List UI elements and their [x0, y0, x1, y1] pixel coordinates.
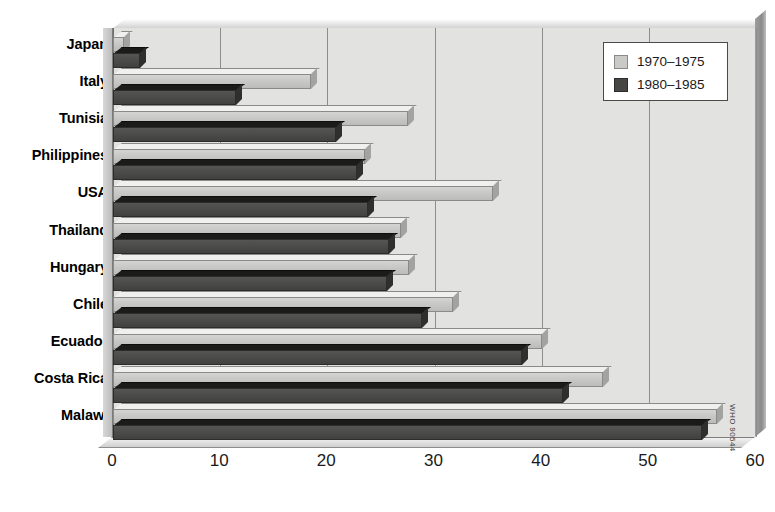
gridline-60 — [756, 28, 757, 437]
legend-label-series-a: 1970–1975 — [637, 55, 705, 69]
category-label-japan: Japan — [0, 37, 108, 52]
bar-group — [113, 288, 755, 325]
category-label-ecuador: Ecuador — [0, 334, 108, 349]
bar-side-face — [408, 105, 414, 126]
x-tick-label-30: 30 — [424, 452, 443, 469]
bar-group — [113, 140, 755, 177]
bar-group — [113, 400, 755, 437]
x-tick-label-10: 10 — [210, 452, 229, 469]
category-label-philippines: Philippines — [0, 148, 108, 163]
x-tick-label-60: 60 — [746, 452, 765, 469]
bar-group — [113, 177, 755, 214]
bar-group — [113, 325, 755, 362]
bar-group — [113, 102, 755, 139]
x-tick-label-50: 50 — [638, 452, 657, 469]
bar-group — [113, 251, 755, 288]
category-label-hungary: Hungary — [0, 260, 108, 275]
bar — [113, 425, 702, 440]
bar-side-face — [542, 328, 548, 349]
credit-text: WHO 90544 — [728, 404, 737, 452]
bar-group — [113, 214, 755, 251]
x-tick-label-40: 40 — [531, 452, 550, 469]
value-axis: 0102030405060 — [112, 452, 772, 478]
bar-side-face — [401, 217, 407, 238]
legend-swatch-series-a — [614, 55, 628, 69]
x-tick-label-0: 0 — [107, 452, 116, 469]
legend-item: 1980–1985 — [614, 74, 727, 95]
category-label-usa: USA — [0, 185, 108, 200]
x-tick-label-20: 20 — [317, 452, 336, 469]
category-label-italy: Italy — [0, 74, 108, 89]
legend-item: 1970–1975 — [614, 51, 727, 72]
bar-side-face — [493, 180, 499, 201]
category-label-malawi: Malawi — [0, 408, 108, 423]
legend-label-series-b: 1980–1985 — [637, 78, 705, 92]
bar-body — [113, 425, 702, 440]
bar-side-face — [311, 68, 317, 89]
category-label-costa-rica: Costa Rica — [0, 371, 108, 386]
chart-legend: 1970–1975 1980–1985 — [603, 42, 728, 101]
bar-side-face — [702, 419, 708, 440]
category-label-chile: Chile — [0, 297, 108, 312]
category-label-thailand: Thailand — [0, 223, 108, 238]
category-axis: JapanItalyTunisiaPhilippinesUSAThailandH… — [0, 25, 108, 443]
bar-side-face — [717, 403, 723, 424]
horizontal-bar-chart: JapanItalyTunisiaPhilippinesUSAThailandH… — [0, 0, 775, 512]
legend-swatch-series-b — [614, 78, 628, 92]
plot-left-face-3d — [103, 28, 112, 437]
category-label-tunisia: Tunisia — [0, 111, 108, 126]
bar-group — [113, 363, 755, 400]
